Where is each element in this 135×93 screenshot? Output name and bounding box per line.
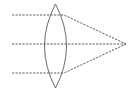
convex-lens-diagram (0, 0, 135, 93)
background (0, 0, 135, 93)
